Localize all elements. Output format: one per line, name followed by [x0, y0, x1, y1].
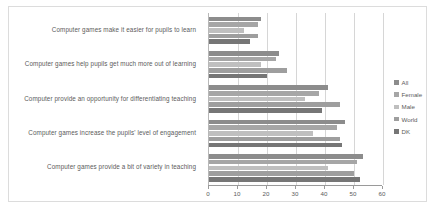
bar[interactable] — [209, 39, 250, 44]
legend-item[interactable]: Female — [394, 91, 437, 98]
bar-group — [209, 13, 382, 47]
bar-row — [209, 120, 382, 125]
bar[interactable] — [209, 62, 261, 67]
gridline — [383, 13, 384, 185]
legend-swatch-icon — [394, 92, 399, 97]
bar-row — [209, 51, 382, 56]
bar-row — [209, 108, 382, 113]
legend-label: Male — [402, 103, 415, 110]
legend-label: World — [402, 116, 418, 123]
category-label: Computer games make it easier for pupils… — [9, 13, 201, 47]
tick-mark — [237, 186, 238, 189]
bar-row — [209, 171, 382, 176]
legend-swatch-icon — [394, 80, 399, 85]
bar-row — [209, 85, 382, 90]
bar-row — [209, 97, 382, 102]
tick-label: 10 — [234, 190, 241, 197]
bar-row — [209, 177, 382, 182]
bar-row — [209, 68, 382, 73]
legend-label: All — [402, 79, 409, 86]
bar[interactable] — [209, 74, 267, 79]
tick-mark — [266, 186, 267, 189]
bar[interactable] — [209, 28, 244, 33]
tick-label: 20 — [263, 190, 270, 197]
bar[interactable] — [209, 102, 340, 107]
bar[interactable] — [209, 68, 287, 73]
tick-mark — [353, 186, 354, 189]
bar[interactable] — [209, 57, 276, 62]
tick-mark — [208, 186, 209, 189]
bar[interactable] — [209, 154, 363, 159]
bar[interactable] — [209, 91, 319, 96]
category-axis-labels: Computer games make it easier for pupils… — [9, 13, 201, 185]
bar-row — [209, 22, 382, 27]
bar-row — [209, 62, 382, 67]
bar[interactable] — [209, 120, 345, 125]
bar-row — [209, 28, 382, 33]
bar-row — [209, 39, 382, 44]
category-label: Computer games help pupils get much more… — [9, 47, 201, 81]
bar[interactable] — [209, 143, 342, 148]
bar-row — [209, 160, 382, 165]
chart-container: Computer games make it easier for pupils… — [8, 6, 427, 202]
legend-item[interactable]: Male — [394, 103, 437, 110]
bar[interactable] — [209, 160, 357, 165]
category-label: Computer provide an opportunity for diff… — [9, 82, 201, 116]
bar-row — [209, 102, 382, 107]
bar-row — [209, 143, 382, 148]
legend-swatch-icon — [394, 105, 399, 110]
bar-groups — [209, 13, 382, 185]
tick-label: 60 — [379, 190, 386, 197]
bar-row — [209, 154, 382, 159]
bar[interactable] — [209, 51, 279, 56]
legend-swatch-icon — [394, 129, 399, 134]
bar-row — [209, 91, 382, 96]
plot-area — [208, 13, 382, 185]
legend-swatch-icon — [394, 117, 399, 122]
x-axis-ticks: 0102030405060 — [208, 186, 382, 202]
bar[interactable] — [209, 22, 258, 27]
bar[interactable] — [209, 171, 354, 176]
bar[interactable] — [209, 34, 258, 39]
tick-label: 50 — [350, 190, 357, 197]
bar-row — [209, 17, 382, 22]
bar[interactable] — [209, 97, 305, 102]
legend-item[interactable]: DK — [394, 128, 437, 135]
legend: AllFemaleMaleWorldDK — [394, 79, 437, 135]
bar[interactable] — [209, 137, 340, 142]
tick-mark — [324, 186, 325, 189]
bar-group — [209, 82, 382, 116]
category-label: Computer games increase the pupils' leve… — [9, 116, 201, 150]
bar-row — [209, 166, 382, 171]
bar-row — [209, 57, 382, 62]
bar-group — [209, 151, 382, 185]
bar[interactable] — [209, 166, 328, 171]
tick-mark — [295, 186, 296, 189]
bar-group — [209, 47, 382, 81]
bar[interactable] — [209, 131, 313, 136]
legend-item[interactable]: All — [394, 79, 437, 86]
bar-row — [209, 125, 382, 130]
legend-label: Female — [402, 91, 423, 98]
bar-group — [209, 116, 382, 150]
tick-mark — [382, 186, 383, 189]
bar-row — [209, 131, 382, 136]
bar[interactable] — [209, 125, 337, 130]
category-label: Computer games provide a bit of variety … — [9, 151, 201, 185]
tick-label: 0 — [206, 190, 209, 197]
bar[interactable] — [209, 108, 322, 113]
bar-row — [209, 74, 382, 79]
bar-row — [209, 34, 382, 39]
bar[interactable] — [209, 17, 261, 22]
legend-item[interactable]: World — [394, 116, 437, 123]
tick-label: 40 — [321, 190, 328, 197]
tick-label: 30 — [292, 190, 299, 197]
bar[interactable] — [209, 85, 328, 90]
bar-row — [209, 137, 382, 142]
legend-label: DK — [402, 128, 411, 135]
bar[interactable] — [209, 177, 360, 182]
